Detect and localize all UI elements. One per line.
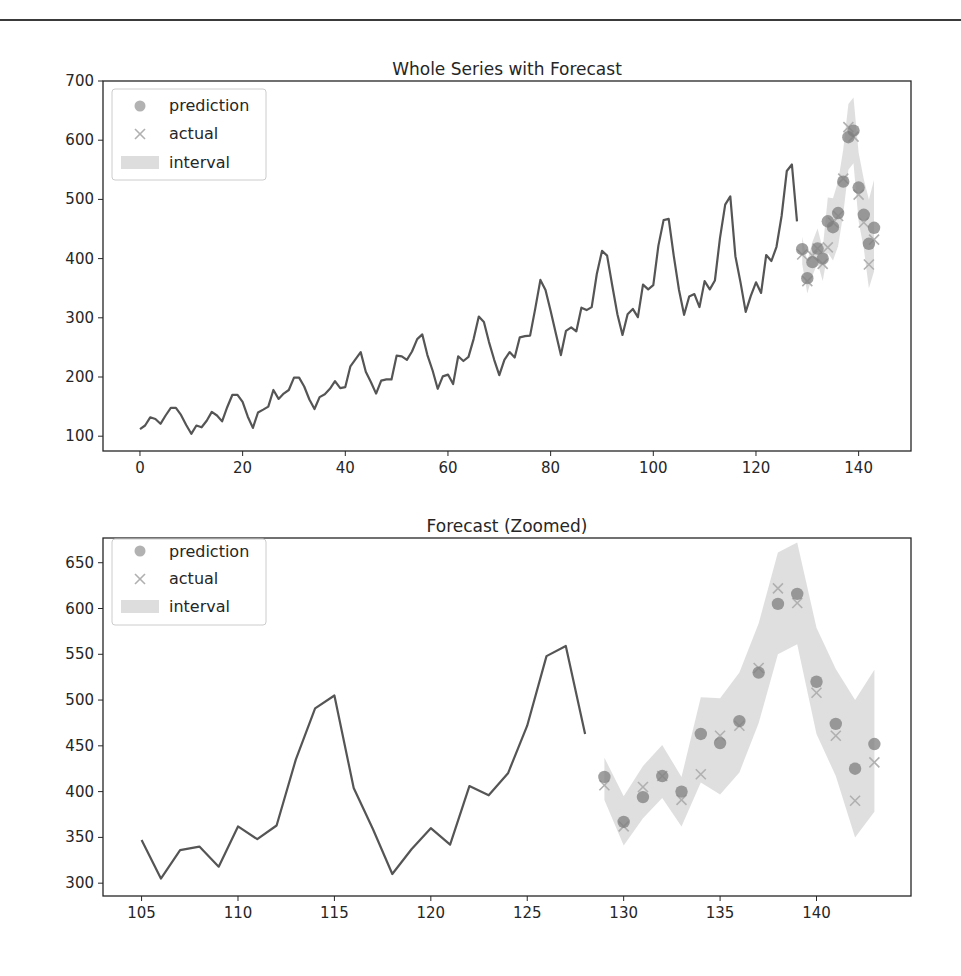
x-tick-label: 80 [541, 459, 560, 477]
y-tick-label: 400 [65, 250, 94, 268]
x-tick-label: 135 [706, 904, 735, 922]
legend-label-prediction: prediction [169, 96, 249, 115]
prediction-marker-icon [656, 770, 668, 782]
prediction-marker-icon [868, 222, 880, 234]
prediction-marker-icon [849, 763, 861, 775]
x-tick-label: 120 [417, 904, 446, 922]
prediction-marker-icon [832, 207, 844, 219]
prediction-marker-icon [695, 728, 707, 740]
prediction-marker-icon [796, 243, 808, 255]
x-tick-label: 0 [135, 459, 145, 477]
prediction-marker-icon [830, 718, 842, 730]
chart-whole-series: Whole Series with Forecast 0204060801001… [65, 59, 911, 477]
legend-interval-swatch-icon [121, 600, 159, 613]
legend-label-actual: actual [169, 569, 218, 588]
x-axis: 020406080100120140 [135, 451, 873, 477]
prediction-marker-icon [801, 272, 813, 284]
legend-label-actual: actual [169, 124, 218, 143]
y-tick-label: 400 [65, 783, 94, 801]
x-tick-label: 20 [233, 459, 252, 477]
x-tick-label: 115 [320, 904, 349, 922]
chart-forecast-zoomed: Forecast (Zoomed) 1051101151201251301351… [65, 516, 911, 922]
prediction-marker-icon [837, 175, 849, 187]
legend-label-interval: interval [169, 597, 230, 616]
y-tick-label: 100 [65, 427, 94, 445]
y-tick-label: 650 [65, 554, 94, 572]
chart-title: Forecast (Zoomed) [427, 516, 588, 536]
y-tick-label: 350 [65, 828, 94, 846]
prediction-marker-icon [868, 738, 880, 750]
x-tick-label: 130 [609, 904, 638, 922]
y-tick-label: 500 [65, 190, 94, 208]
prediction-marker-icon [810, 676, 822, 688]
x-tick-label: 100 [639, 459, 668, 477]
y-tick-label: 300 [65, 874, 94, 892]
y-tick-label: 600 [65, 131, 94, 149]
y-tick-label: 300 [65, 309, 94, 327]
prediction-marker-icon [733, 715, 745, 727]
y-tick-label: 450 [65, 737, 94, 755]
prediction-marker-icon [675, 785, 687, 797]
prediction-marker-icon [617, 816, 629, 828]
legend: prediction actual interval [112, 539, 266, 625]
y-tick-label: 600 [65, 600, 94, 618]
prediction-marker-icon [863, 238, 875, 250]
prediction-marker-icon [827, 221, 839, 233]
x-tick-label: 140 [802, 904, 831, 922]
prediction-marker-icon [772, 598, 784, 610]
prediction-marker-icon [637, 791, 649, 803]
prediction-marker-icon [791, 588, 803, 600]
x-tick-label: 60 [438, 459, 457, 477]
legend-interval-swatch-icon [121, 156, 159, 169]
y-tick-label: 550 [65, 645, 94, 663]
prediction-marker-icon [752, 666, 764, 678]
y-axis: 300350400450500550600650 [65, 554, 103, 892]
x-tick-label: 40 [336, 459, 355, 477]
chart-title: Whole Series with Forecast [392, 59, 622, 79]
legend-prediction-marker-icon [135, 546, 146, 557]
legend: prediction actual interval [112, 89, 266, 180]
prediction-marker-icon [852, 181, 864, 193]
x-tick-label: 120 [742, 459, 771, 477]
legend-label-prediction: prediction [169, 542, 249, 561]
x-tick-label: 140 [844, 459, 873, 477]
y-tick-label: 500 [65, 691, 94, 709]
y-axis: 100200300400500600700 [65, 72, 103, 445]
prediction-marker-icon [817, 252, 829, 264]
legend-prediction-marker-icon [135, 101, 146, 112]
prediction-marker-icon [847, 125, 859, 137]
y-tick-label: 200 [65, 368, 94, 386]
series-line [142, 646, 585, 879]
x-axis: 105110115120125130135140 [127, 896, 831, 922]
x-tick-label: 110 [224, 904, 253, 922]
series-line [140, 165, 797, 434]
prediction-marker-icon [858, 209, 870, 221]
x-tick-label: 125 [513, 904, 542, 922]
y-tick-label: 700 [65, 72, 94, 90]
legend-label-interval: interval [169, 153, 230, 172]
prediction-marker-icon [714, 737, 726, 749]
prediction-marker-icon [598, 771, 610, 783]
x-tick-label: 105 [127, 904, 156, 922]
figure-canvas: Whole Series with Forecast 0204060801001… [0, 0, 961, 976]
